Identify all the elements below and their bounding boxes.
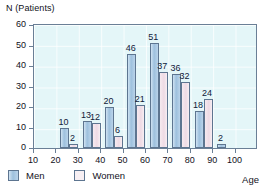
bar-value-label: 24: [194, 88, 220, 98]
bar-value-label: 6: [104, 125, 130, 135]
y-axis-tick-label: 0: [21, 142, 26, 152]
legend: MenWomen: [8, 170, 125, 181]
bar-men-age-90: [217, 144, 226, 148]
bar-women-age-60: [159, 72, 168, 148]
bar-value-label: 2: [207, 133, 233, 143]
x-axis-tick-label: 30: [66, 155, 90, 165]
y-axis-tick-mark: [29, 87, 33, 88]
y-axis-tick-mark: [29, 128, 33, 129]
x-axis-tick-label: 90: [200, 155, 224, 165]
y-axis-tick-mark: [29, 107, 33, 108]
legend-item-label: Women: [92, 170, 125, 181]
x-axis-tick-label: 100: [223, 155, 247, 165]
y-axis-tick-label: 40: [16, 60, 26, 70]
x-axis-tick-mark: [33, 149, 34, 153]
bar-value-label: 32: [172, 71, 198, 81]
x-axis-tick-label: 50: [111, 155, 135, 165]
x-axis-tick-label: 70: [155, 155, 179, 165]
bar-men-age-70: [172, 74, 181, 148]
bar-value-label: 21: [127, 94, 153, 104]
y-axis-tick-label: 20: [16, 101, 26, 111]
bar-value-label: 2: [60, 133, 86, 143]
y-axis-tick-mark: [29, 46, 33, 47]
bar-value-label: 12: [82, 112, 108, 122]
x-axis-tick-mark: [167, 149, 168, 153]
y-axis-tick-label: 10: [16, 122, 26, 132]
x-axis-tick-mark: [78, 149, 79, 153]
x-axis-tick-mark: [212, 149, 213, 153]
y-axis-title: N (Patients): [6, 3, 55, 13]
women-swatch-icon: [74, 170, 85, 181]
bar-women-age-70: [181, 82, 190, 148]
legend-item-label: Men: [26, 170, 44, 181]
x-axis-tick-mark: [235, 149, 236, 153]
y-axis-tick-mark: [29, 25, 33, 26]
men-swatch-icon: [8, 170, 19, 181]
x-axis-tick-label: 20: [43, 155, 67, 165]
x-axis-tick-label: 80: [178, 155, 202, 165]
y-axis-tick-label: 50: [16, 40, 26, 50]
x-axis-tick-mark: [145, 149, 146, 153]
plot-area: [33, 24, 257, 149]
y-axis-tick-label: 60: [16, 19, 26, 29]
bar-chart: N (Patients) MenWomen Age 01020304050601…: [0, 0, 267, 194]
bar-men-age-80: [195, 111, 204, 148]
x-axis-tick-label: 10: [21, 155, 45, 165]
x-axis-tick-label: 60: [133, 155, 157, 165]
bar-women-age-40: [114, 136, 123, 148]
legend-item-women[interactable]: Women: [74, 170, 125, 181]
bar-value-label: 18: [185, 100, 211, 110]
x-axis-title: Age: [242, 174, 259, 185]
bar-value-label: 46: [118, 43, 144, 53]
y-axis-tick-label: 30: [16, 81, 26, 91]
bar-women-age-30: [92, 123, 101, 148]
x-axis-tick-mark: [100, 149, 101, 153]
x-axis-tick-label: 40: [88, 155, 112, 165]
x-axis-tick-mark: [123, 149, 124, 153]
legend-item-men[interactable]: Men: [8, 170, 44, 181]
bar-women-age-50: [136, 105, 145, 148]
bar-value-label: 20: [95, 96, 121, 106]
x-axis-tick-mark: [55, 149, 56, 153]
bar-women-age-20: [69, 144, 78, 148]
bar-value-label: 51: [140, 32, 166, 42]
y-axis-tick-mark: [29, 66, 33, 67]
x-axis-tick-mark: [190, 149, 191, 153]
